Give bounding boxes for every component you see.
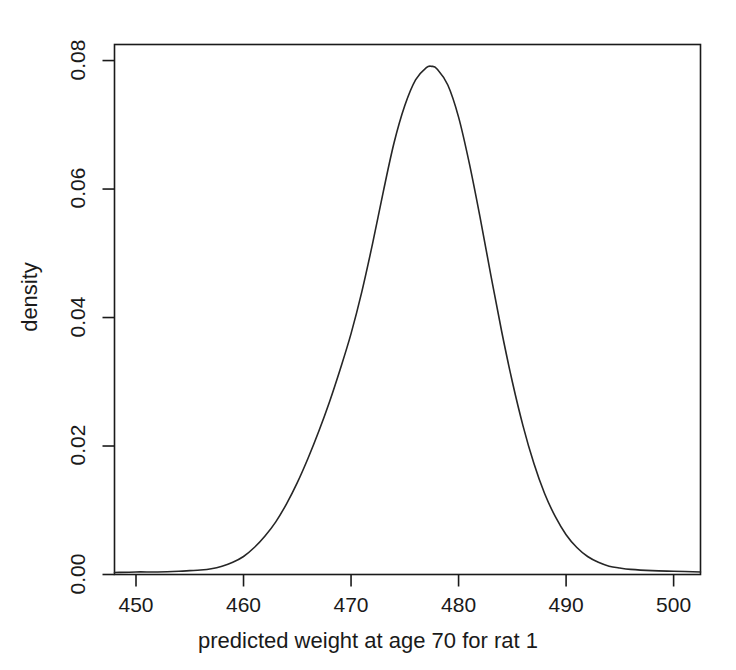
x-tick-label: 450 — [96, 593, 176, 617]
x-tick-label: 470 — [311, 593, 391, 617]
density-plot-figure: 450460470480490500 0.000.020.040.060.08 … — [0, 0, 736, 670]
x-axis-title: predicted weight at age 70 for rat 1 — [0, 628, 736, 654]
x-axis-ticks — [136, 575, 674, 587]
y-tick-label: 0.00 — [66, 524, 90, 624]
y-axis-ticks — [103, 61, 115, 575]
y-tick-label: 0.04 — [66, 267, 90, 367]
x-tick-label: 480 — [419, 593, 499, 617]
x-tick-label: 490 — [526, 593, 606, 617]
plot-frame — [115, 45, 701, 575]
y-axis-title: density — [17, 247, 43, 347]
y-tick-label: 0.06 — [66, 138, 90, 238]
y-tick-label: 0.02 — [66, 395, 90, 495]
plot-canvas — [0, 0, 736, 670]
y-tick-label: 0.08 — [66, 10, 90, 110]
x-tick-label: 500 — [634, 593, 714, 617]
density-curve — [115, 66, 701, 573]
x-tick-label: 460 — [204, 593, 284, 617]
